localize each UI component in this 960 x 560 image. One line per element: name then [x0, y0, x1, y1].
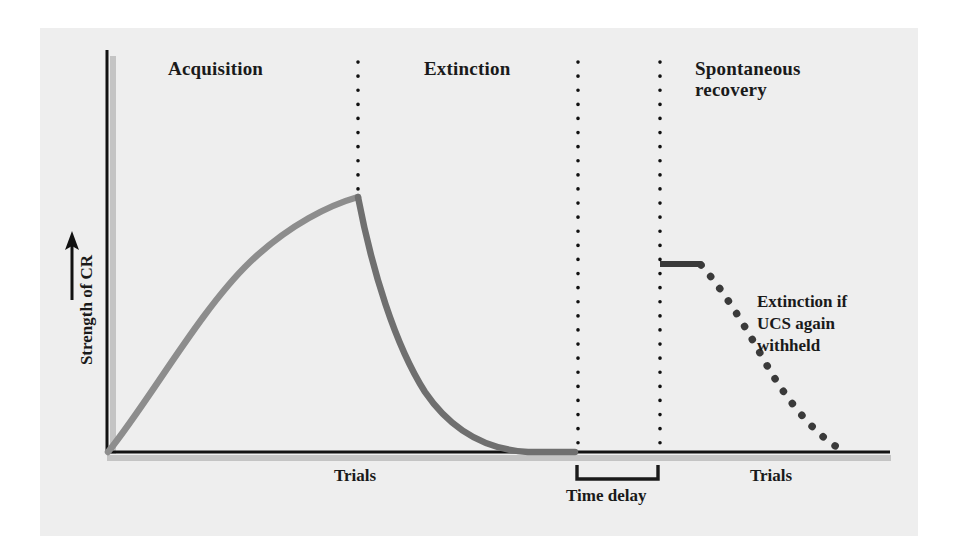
annotation-extinction-if-ucs-withheld: Extinction if UCS again withheld — [757, 291, 847, 356]
axes — [106, 50, 890, 452]
x-axis-label-trials-right: Trials — [750, 466, 792, 486]
extinction-curve — [358, 197, 575, 452]
acquisition-curve — [108, 197, 358, 452]
conditioning-diagram: Acquisition Extinction Spontaneous recov… — [0, 0, 960, 560]
time-delay-bracket — [577, 465, 658, 479]
axis-shadow — [107, 56, 891, 461]
time-delay-label: Time delay — [566, 486, 646, 506]
phase-label-extinction: Extinction — [424, 58, 510, 79]
plot-canvas — [0, 0, 960, 560]
phase-label-spontaneous-recovery: Spontaneous recovery — [695, 58, 801, 101]
y-axis-label: Strength of CR — [77, 215, 97, 405]
x-axis-label-trials-left: Trials — [334, 466, 376, 486]
phase-label-acquisition: Acquisition — [168, 58, 263, 79]
